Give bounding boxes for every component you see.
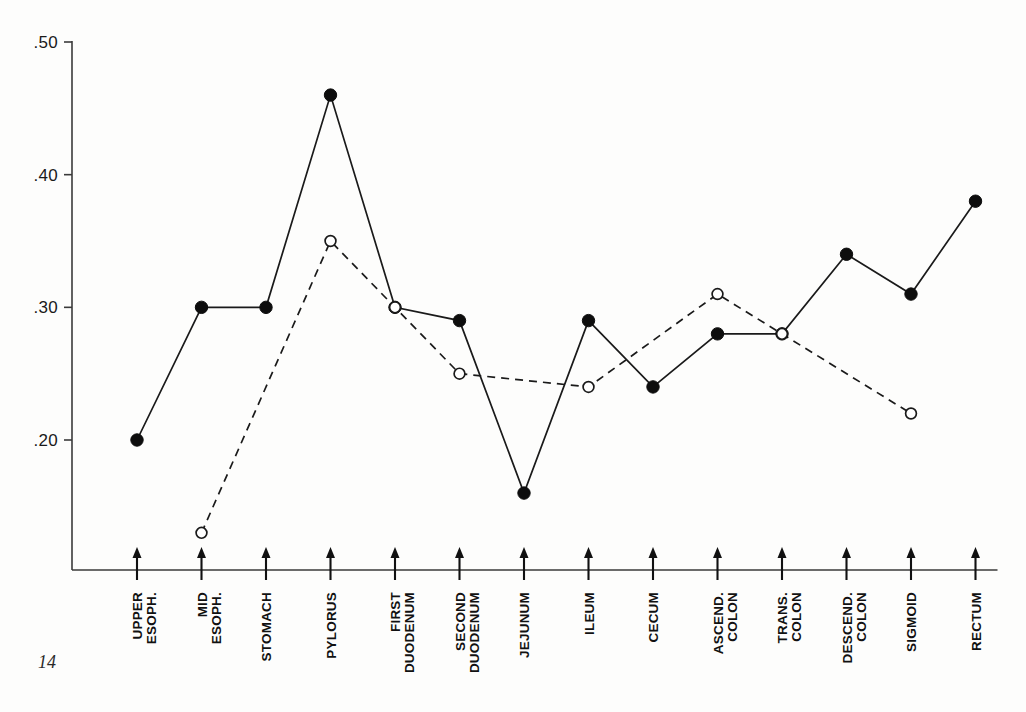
x-tick-arrowhead	[584, 547, 593, 558]
x-tick-arrow	[907, 547, 916, 580]
data-point-open	[196, 527, 207, 538]
data-point-open	[712, 289, 723, 300]
x-tick-arrow	[713, 547, 722, 580]
line-chart: .50.40.30.20 UPPERESOPH.MIDESOPH.STOMACH…	[0, 0, 1026, 712]
x-tick-label: CECUM	[646, 592, 661, 643]
x-tick-arrow	[842, 547, 851, 580]
data-point-filled	[131, 434, 143, 446]
series-lines	[137, 95, 976, 533]
x-tick-label: ESOPH.	[209, 592, 224, 644]
x-tick-arrowhead	[326, 547, 335, 558]
x-tick-arrowhead	[197, 547, 206, 558]
data-point-filled	[195, 301, 207, 313]
x-tick-label: UPPER	[130, 592, 145, 640]
x-tick-label: SECOND	[453, 592, 468, 651]
x-tick-arrowhead	[842, 547, 851, 558]
x-tick-label: PYLORUS	[324, 592, 339, 659]
page-number: 14	[38, 652, 56, 673]
x-tick-label: STOMACH	[259, 592, 274, 661]
data-point-open	[906, 408, 917, 419]
data-point-filled	[647, 381, 659, 393]
data-point-open	[777, 328, 788, 339]
x-tick-label: MID	[195, 592, 210, 617]
x-tick-arrowhead	[520, 547, 529, 558]
y-tick-label: .40	[33, 166, 58, 185]
x-tick-label: COLON	[854, 592, 869, 642]
data-point-filled	[260, 301, 272, 313]
x-tick-arrow	[971, 547, 980, 580]
x-tick-arrow	[520, 547, 529, 580]
x-tick-label: RECTUM	[969, 592, 984, 651]
x-tick-label: FIRST	[388, 591, 403, 632]
x-tick-label: ASCEND.	[711, 592, 726, 654]
figure-page: .50.40.30.20 UPPERESOPH.MIDESOPH.STOMACH…	[0, 0, 1026, 712]
x-tick-arrowhead	[778, 547, 787, 558]
x-tick-arrowhead	[649, 547, 658, 558]
x-tick-arrowhead	[262, 547, 271, 558]
dashed-series-line	[202, 241, 912, 533]
x-tick-label: SIGMOID	[904, 592, 919, 652]
x-tick-label: ILEUM	[582, 592, 597, 635]
x-tick-arrow	[455, 547, 464, 580]
x-tick-label: DUODENUM	[402, 592, 417, 673]
x-tick-arrowhead	[391, 547, 400, 558]
x-tick-arrow	[133, 547, 142, 580]
x-tick-arrow	[584, 547, 593, 580]
data-point-filled	[711, 328, 723, 340]
y-tick-label: .20	[33, 431, 58, 450]
y-tick-label: .30	[33, 298, 58, 317]
data-point-filled	[905, 288, 917, 300]
x-tick-label: TRANS.	[775, 592, 790, 643]
x-tick-label: DESCEND.	[840, 592, 855, 663]
data-point-open	[390, 302, 401, 313]
series-markers	[131, 89, 982, 538]
x-tick-arrow	[778, 547, 787, 580]
x-tick-arrow	[262, 547, 271, 580]
data-point-filled	[582, 314, 594, 326]
data-point-open	[583, 382, 594, 393]
x-tick-arrow	[197, 547, 206, 580]
x-tick-label: ESOPH.	[144, 592, 159, 644]
x-tick-arrow	[326, 547, 335, 580]
x-tick-arrowhead	[907, 547, 916, 558]
data-point-open	[454, 368, 465, 379]
x-tick-arrow	[649, 547, 658, 580]
data-point-filled	[840, 248, 852, 260]
data-point-filled	[324, 89, 336, 101]
x-tick-arrowhead	[713, 547, 722, 558]
data-point-open	[325, 236, 336, 247]
x-tick-label: JEJUNUM	[517, 592, 532, 658]
x-axis-tick-labels: UPPERESOPH.MIDESOPH.STOMACHPYLORUSFIRSTD…	[130, 591, 984, 673]
y-tick-label: .50	[33, 33, 58, 52]
x-tick-arrowhead	[133, 547, 142, 558]
x-tick-label: DUODENUM	[467, 592, 482, 673]
y-axis-tick-labels: .50.40.30.20	[33, 33, 58, 450]
x-tick-arrow	[391, 547, 400, 580]
x-tick-label: COLON	[725, 592, 740, 642]
x-tick-label: COLON	[789, 592, 804, 642]
data-point-filled	[969, 195, 981, 207]
data-point-filled	[518, 487, 530, 499]
x-tick-arrowhead	[971, 547, 980, 558]
x-tick-arrowhead	[455, 547, 464, 558]
data-point-filled	[453, 314, 465, 326]
solid-series-line	[137, 95, 976, 493]
